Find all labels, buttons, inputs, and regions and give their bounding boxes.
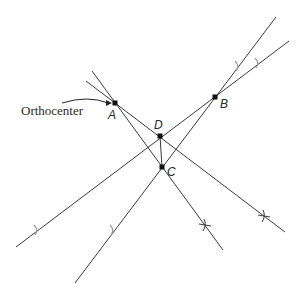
orthocenter-diagram: ABDC Orthocenter (0, 0, 298, 298)
point-marker-icon (158, 134, 163, 139)
point-marker-icon (213, 95, 218, 100)
point-label-A: A (107, 108, 116, 122)
point-marker-icon (160, 165, 165, 170)
point-label-B: B (220, 97, 228, 111)
orthocenter-label: Orthocenter (21, 103, 84, 118)
point-marker-icon (113, 101, 118, 106)
point-label-C: C (167, 165, 176, 179)
point-label-D: D (154, 118, 163, 132)
